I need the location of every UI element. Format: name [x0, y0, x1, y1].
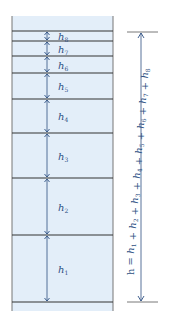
total-height-formula: h = h1 + h2 + h3 + h4 + h5 + h6 + h7 + h…: [125, 68, 151, 275]
layer-diagram: h8h7h6h5h4h3h2h1 h = h1 + h2 + h3 + h4 +…: [0, 0, 172, 326]
